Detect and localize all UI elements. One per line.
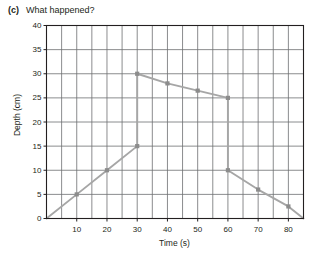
x-tick-label: 30 [125,225,149,234]
x-tick-label: 10 [65,225,89,234]
x-tick-label: 40 [155,225,179,234]
y-tick-label: 25 [18,93,42,102]
y-tick-label: 20 [18,118,42,127]
x-tick-label: 80 [276,225,300,234]
y-tick-label: 0 [18,214,42,223]
x-tick-label: 50 [186,225,210,234]
x-tick-label: 20 [95,225,119,234]
depth-vs-time-chart: Depth (cm) Time (s) 05101520253035401020… [0,0,316,254]
plot-svg [0,0,316,254]
y-tick-label: 30 [18,69,42,78]
y-tick-label: 35 [18,45,42,54]
y-tick-label: 15 [18,142,42,151]
y-tick-label: 10 [18,166,42,175]
y-tick-label: 40 [18,21,42,30]
y-tick-label: 5 [18,190,42,199]
x-axis-title: Time (s) [46,238,303,248]
x-tick-label: 60 [216,225,240,234]
x-tick-label: 70 [246,225,270,234]
